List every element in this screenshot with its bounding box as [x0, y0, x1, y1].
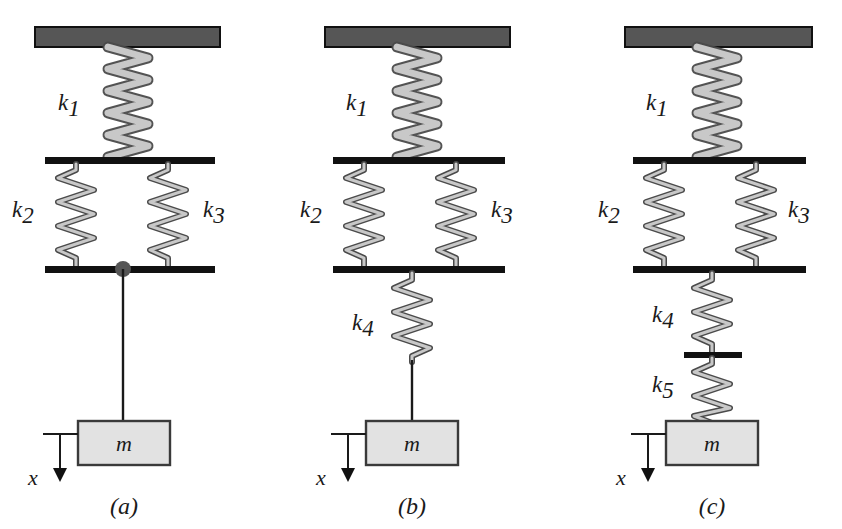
- spring-k4: [394, 273, 430, 362]
- mass-label: m: [404, 431, 420, 456]
- panel-caption-a: (a): [110, 493, 138, 519]
- spring-k3: [738, 164, 774, 268]
- axis-label-x: x: [27, 465, 38, 490]
- spring-k1: [397, 47, 437, 157]
- x-axis-indicator: [331, 434, 366, 482]
- spring-label-k3: k3: [491, 197, 513, 228]
- upper-bar: [333, 157, 505, 164]
- spring-k5: [694, 358, 730, 423]
- spring-k3: [150, 164, 186, 268]
- spring-label-k2: k2: [598, 197, 620, 228]
- spring-k3: [438, 164, 474, 268]
- figure-root: k1 k2 k3 m x (a): [0, 0, 842, 529]
- panel-a: k1 k2 k3 m x (a): [0, 0, 282, 529]
- panel-caption-c: (c): [699, 493, 726, 519]
- spring-label-k1: k1: [58, 90, 80, 121]
- spring-label-k5: k5: [652, 372, 674, 403]
- lower-bar: [333, 266, 505, 273]
- upper-bar: [633, 157, 806, 164]
- spring-label-k3: k3: [788, 197, 810, 228]
- panel-caption-b: (b): [398, 493, 426, 519]
- lower-bar: [633, 266, 806, 273]
- spring-k2: [58, 164, 94, 268]
- x-axis-indicator: [43, 434, 78, 482]
- axis-label-x: x: [615, 465, 626, 490]
- spring-k1: [108, 47, 148, 157]
- panel-b: k1 k2 k3 k4 m x (b): [280, 0, 562, 529]
- axis-label-x: x: [315, 465, 326, 490]
- x-axis-indicator: [631, 434, 666, 482]
- spring-k1: [697, 47, 737, 157]
- mass-label: m: [116, 431, 132, 456]
- ceiling-bar: [35, 27, 220, 47]
- spring-k4: [694, 273, 730, 352]
- spring-k2: [646, 164, 682, 268]
- spring-label-k2: k2: [12, 197, 34, 228]
- spring-k2: [346, 164, 382, 268]
- ceiling-bar: [625, 27, 812, 47]
- spring-label-k1: k1: [346, 90, 368, 121]
- spring-label-k4: k4: [352, 310, 374, 341]
- mass-label: m: [704, 431, 720, 456]
- ceiling-bar: [325, 27, 510, 47]
- upper-bar: [45, 157, 215, 164]
- spring-label-k4: k4: [652, 302, 674, 333]
- spring-label-k2: k2: [300, 197, 322, 228]
- spring-label-k3: k3: [203, 197, 225, 228]
- panel-c: k1 k2 k3 k4 k5 m x (c): [560, 0, 842, 529]
- spring-label-k1: k1: [646, 90, 668, 121]
